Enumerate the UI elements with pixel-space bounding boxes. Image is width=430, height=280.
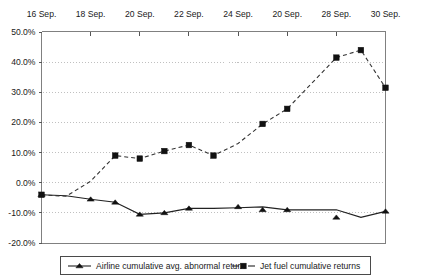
legend-marker-square bbox=[241, 263, 247, 269]
data-point-marker-jetfuel bbox=[383, 85, 389, 91]
data-point-marker-jetfuel bbox=[162, 148, 168, 154]
data-point-marker-jetfuel bbox=[186, 142, 192, 148]
y-tick-label: 40.0% bbox=[11, 57, 36, 67]
data-point-marker-jetfuel bbox=[260, 121, 266, 127]
data-point-marker-jetfuel bbox=[39, 192, 45, 198]
x-tick-label: 30 Sep. bbox=[371, 9, 401, 19]
data-point-marker-jetfuel bbox=[358, 47, 364, 53]
chart-container: 50.0%40.0%30.0%20.0%10.0%0.0%-10.0%-20.0… bbox=[0, 0, 430, 280]
x-tick-label: 20 Sep. bbox=[125, 9, 155, 19]
x-tick-label: 22 Sep. bbox=[174, 9, 204, 19]
chart-background bbox=[0, 0, 430, 280]
x-tick-label: 16 Sep. bbox=[27, 9, 57, 19]
x-tick-label: 20 Sep. bbox=[272, 9, 302, 19]
legend-label: Jet fuel cumulative returns bbox=[260, 261, 360, 271]
y-tick-label: -20.0% bbox=[8, 238, 36, 248]
data-point-marker-jetfuel bbox=[334, 55, 340, 61]
x-tick-label: 18 Sep. bbox=[76, 9, 106, 19]
data-point-marker-jetfuel bbox=[112, 153, 118, 159]
legend: Airline cumulative avg. abnormal returnJ… bbox=[61, 257, 371, 275]
y-tick-label: 20.0% bbox=[11, 117, 36, 127]
y-tick-label: 0.0% bbox=[16, 178, 36, 188]
y-tick-label: -10.0% bbox=[8, 208, 36, 218]
returns-line-chart: 50.0%40.0%30.0%20.0%10.0%0.0%-10.0%-20.0… bbox=[0, 0, 430, 280]
data-point-marker-jetfuel bbox=[284, 106, 290, 112]
data-point-marker-jetfuel bbox=[137, 156, 143, 162]
legend-label: Airline cumulative avg. abnormal return bbox=[96, 261, 245, 271]
x-tick-label: 28 Sep. bbox=[322, 9, 352, 19]
x-tick-label: 24 Sep. bbox=[223, 9, 253, 19]
y-tick-label: 50.0% bbox=[11, 27, 36, 37]
data-point-marker-jetfuel bbox=[211, 153, 217, 159]
y-tick-label: 10.0% bbox=[11, 148, 36, 158]
y-tick-label: 30.0% bbox=[11, 87, 36, 97]
